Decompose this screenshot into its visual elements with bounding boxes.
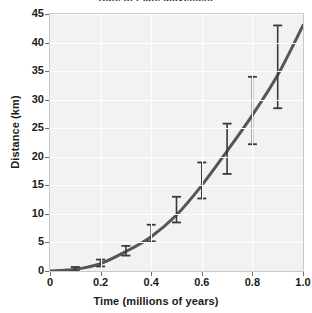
gridline-horizontal	[50, 242, 303, 243]
gridline-vertical	[202, 14, 203, 271]
gridline-horizontal	[50, 14, 303, 15]
x-tick-mark	[202, 272, 203, 276]
y-tick-mark	[45, 185, 49, 186]
x-tick-label: 0.2	[81, 276, 121, 288]
gridline-vertical	[151, 14, 152, 271]
x-tick-label: 0.4	[131, 276, 171, 288]
gridline-vertical	[252, 14, 253, 271]
x-tick-label: 0.6	[182, 276, 222, 288]
gridline-horizontal	[50, 128, 303, 129]
x-tick-mark	[50, 272, 51, 276]
y-tick-label: 40	[14, 36, 44, 48]
y-tick-label: 45	[14, 7, 44, 19]
gridline-horizontal	[50, 157, 303, 158]
x-axis-title: Time (millions of years)	[0, 295, 312, 307]
y-tick-mark	[45, 100, 49, 101]
x-tick-mark	[151, 272, 152, 276]
x-tick-label: 1.0	[283, 276, 312, 288]
x-tick-mark	[303, 272, 304, 276]
gridline-horizontal	[50, 214, 303, 215]
y-tick-label: 10	[14, 207, 44, 219]
x-tick-label: 0	[30, 276, 70, 288]
chart-figure: Rate of Plate Movement Distance (km) Tim…	[0, 0, 312, 313]
y-tick-mark	[45, 157, 49, 158]
plot-inner	[50, 14, 303, 271]
y-tick-label: 5	[14, 235, 44, 247]
plot-area	[49, 13, 304, 272]
gridline-horizontal	[50, 185, 303, 186]
gridline-horizontal	[50, 43, 303, 44]
chart-title: Rate of Plate Movement	[0, 0, 312, 1]
gridline-horizontal	[50, 71, 303, 72]
data-curve	[50, 25, 303, 271]
x-tick-mark	[101, 272, 102, 276]
y-tick-mark	[45, 71, 49, 72]
data-layer	[50, 14, 303, 271]
gridline-horizontal	[50, 100, 303, 101]
y-tick-label: 35	[14, 64, 44, 76]
y-tick-label: 30	[14, 93, 44, 105]
gridline-vertical	[101, 14, 102, 271]
y-tick-mark	[45, 128, 49, 129]
x-tick-mark	[252, 272, 253, 276]
y-tick-label: 25	[14, 121, 44, 133]
y-tick-label: 15	[14, 178, 44, 190]
y-tick-mark	[45, 271, 49, 272]
y-tick-mark	[45, 214, 49, 215]
x-tick-label: 0.8	[232, 276, 272, 288]
y-tick-label: 0	[14, 264, 44, 276]
y-tick-mark	[45, 242, 49, 243]
y-tick-label: 20	[14, 150, 44, 162]
y-tick-mark	[45, 14, 49, 15]
y-tick-mark	[45, 43, 49, 44]
